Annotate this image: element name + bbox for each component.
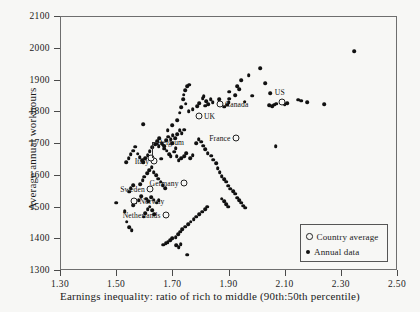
data-point (271, 104, 275, 108)
data-point (177, 245, 181, 249)
x-tick-label: 1.50 (107, 279, 125, 289)
data-point (141, 179, 145, 183)
legend-item-annual-data: Annual data (306, 244, 382, 259)
x-axis-title: Earnings inequality: ratio of rich to mi… (0, 290, 420, 302)
data-point (214, 162, 218, 166)
x-tick-label: 1.70 (163, 279, 181, 289)
data-point (244, 206, 248, 210)
data-point (195, 141, 199, 145)
data-point (184, 102, 188, 106)
data-point (202, 94, 206, 98)
data-point (182, 93, 186, 97)
data-point (228, 90, 232, 94)
data-point (174, 235, 178, 239)
chart-figure: 130014001500160017001800190020002100 1.3… (0, 0, 420, 312)
data-point (353, 49, 357, 53)
country-average-marker (148, 154, 155, 161)
data-point (186, 253, 190, 257)
data-point (145, 172, 149, 176)
data-point (133, 145, 137, 149)
x-tick-mark (116, 270, 117, 276)
data-point (148, 149, 152, 153)
y-tick-mark (54, 143, 60, 144)
leader-line (152, 142, 153, 158)
data-point (130, 228, 134, 232)
data-point (171, 123, 175, 127)
y-tick-mark (54, 16, 60, 17)
legend-label-country-average: Country average (317, 232, 379, 242)
data-point (180, 106, 184, 110)
x-tick-mark (229, 270, 230, 276)
country-label: US (275, 88, 285, 97)
country-label: Germany (150, 179, 179, 188)
data-point (305, 101, 309, 105)
x-tick-mark (60, 270, 61, 276)
x-tick-mark (285, 270, 286, 276)
country-label: Belgium (157, 137, 184, 146)
x-tick-mark (397, 270, 398, 276)
data-point (142, 175, 146, 179)
data-point (251, 94, 255, 98)
data-point (233, 93, 237, 97)
data-point (211, 101, 215, 105)
data-point (169, 155, 173, 159)
data-point (206, 102, 210, 106)
y-tick-label: 2100 (29, 11, 50, 21)
data-point (189, 156, 193, 160)
data-point (299, 99, 303, 103)
data-point (172, 150, 176, 154)
y-tick-label: 1300 (29, 265, 50, 275)
x-tick-mark (341, 270, 342, 276)
x-tick-label: 1.30 (51, 279, 69, 289)
country-average-marker (217, 101, 224, 108)
country-average-marker (278, 99, 285, 106)
country-average-marker (131, 198, 138, 205)
x-tick-label: 1.90 (219, 279, 237, 289)
filled-dot-icon (306, 250, 310, 254)
data-point (162, 243, 166, 247)
legend-item-country-average: Country average (306, 229, 382, 244)
y-tick-mark (54, 238, 60, 239)
data-point (153, 142, 157, 146)
country-average-marker (162, 212, 169, 219)
data-point (141, 122, 145, 126)
data-point (179, 242, 183, 246)
data-point (182, 155, 186, 159)
y-tick-mark (54, 48, 60, 49)
data-point (176, 132, 180, 136)
data-point (181, 97, 185, 101)
country-label: Canada (225, 100, 248, 109)
y-tick-mark (54, 175, 60, 176)
data-point (191, 108, 195, 112)
data-point (159, 157, 163, 161)
y-tick-mark (54, 111, 60, 112)
x-tick-mark (172, 270, 173, 276)
x-tick-label: 2.10 (276, 279, 294, 289)
country-average-marker (196, 113, 203, 120)
data-point (237, 88, 241, 92)
x-tick-label: 2.30 (332, 279, 350, 289)
data-point (203, 104, 207, 108)
country-label: Norway (139, 197, 164, 206)
data-point (258, 67, 262, 71)
data-point (267, 103, 271, 107)
data-point (183, 88, 187, 92)
data-point (187, 109, 191, 113)
data-point (185, 151, 189, 155)
data-point (226, 205, 230, 209)
country-label: Netherlands (123, 211, 161, 220)
chart-legend: Country average Annual data (300, 224, 388, 262)
data-point (178, 111, 182, 115)
y-tick-mark (54, 207, 60, 208)
data-point (263, 82, 267, 86)
data-point (150, 165, 154, 169)
data-point (174, 146, 178, 150)
legend-label-annual-data: Annual data (314, 247, 359, 257)
country-label: UK (204, 112, 215, 121)
data-point (166, 129, 170, 133)
data-point (247, 74, 251, 78)
data-point (148, 169, 152, 173)
data-point (125, 220, 129, 224)
country-average-marker (180, 180, 187, 187)
data-point (274, 144, 278, 148)
